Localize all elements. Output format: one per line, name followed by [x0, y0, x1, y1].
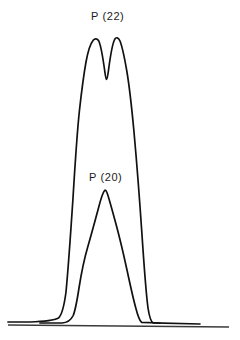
peak-label-p22: P (22) — [91, 10, 124, 22]
baseline-axis — [8, 325, 229, 327]
peak-label-p20: P (20) — [89, 171, 122, 183]
spectrum-plot — [0, 0, 240, 340]
trace-p20-inner-peak — [40, 190, 160, 323]
spectrum-figure: P (22) P (20) — [0, 0, 240, 340]
